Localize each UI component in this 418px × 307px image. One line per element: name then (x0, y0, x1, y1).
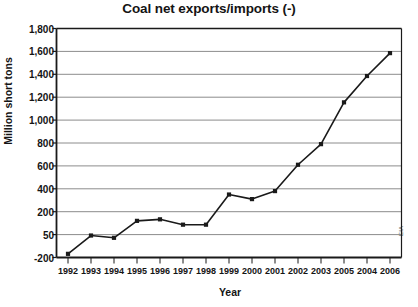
x-tick-label: 2004 (357, 266, 377, 276)
chart-figure: Coal net exports/imports (-) Million sho… (0, 0, 418, 307)
x-tick-label: 1999 (219, 266, 239, 276)
x-tick-label: 1995 (127, 266, 147, 276)
x-tick-label: 2000 (242, 266, 262, 276)
x-tick-label: 2003 (311, 266, 331, 276)
x-tick-label: 1997 (173, 266, 193, 276)
x-tick-label: 2001 (265, 266, 285, 276)
x-axis-tick-labels: 1992199319941995199619971998199920002001… (0, 0, 418, 307)
x-tick-label: 2002 (288, 266, 308, 276)
x-tick-label: 2006 (380, 266, 400, 276)
x-tick-label: 2005 (334, 266, 354, 276)
x-tick-label: 1994 (104, 266, 124, 276)
x-tick-label: 1993 (81, 266, 101, 276)
x-tick-label: 1998 (196, 266, 216, 276)
x-tick-label: 1992 (58, 266, 78, 276)
x-tick-label: 1996 (150, 266, 170, 276)
